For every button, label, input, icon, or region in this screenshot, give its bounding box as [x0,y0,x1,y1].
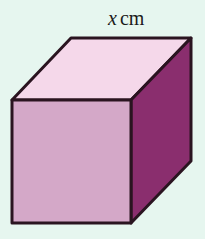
cube-front-face [12,100,131,223]
cube-figure [0,0,205,239]
edge-variable: x [108,7,117,29]
edge-unit: cm [120,7,144,29]
edge-length-label: xcm [108,6,144,30]
